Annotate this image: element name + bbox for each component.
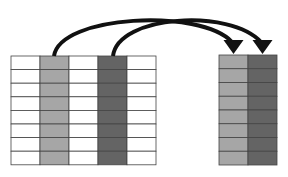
table-cell xyxy=(11,138,40,152)
table-cell xyxy=(69,138,98,152)
table-cell xyxy=(11,97,40,111)
table-cell xyxy=(219,138,248,152)
table-cell xyxy=(219,124,248,138)
table-cell xyxy=(219,96,248,110)
table-cell xyxy=(69,97,98,111)
table-cell xyxy=(127,124,156,138)
table-cell xyxy=(11,70,40,84)
source-column-4-dark xyxy=(98,56,127,165)
table-cell xyxy=(98,56,127,70)
target-table xyxy=(219,55,277,165)
table-cell xyxy=(40,97,69,111)
table-cell xyxy=(40,56,69,70)
table-cell xyxy=(11,56,40,70)
table-cell xyxy=(248,124,277,138)
table-cell xyxy=(98,70,127,84)
table-cell xyxy=(219,69,248,83)
table-cell xyxy=(98,151,127,165)
table-cell xyxy=(248,55,277,69)
table-cell xyxy=(98,83,127,97)
arrowhead-icon xyxy=(224,40,244,54)
table-cell xyxy=(127,70,156,84)
source-column-1 xyxy=(11,56,40,165)
table-cell xyxy=(69,83,98,97)
table-cell xyxy=(248,151,277,165)
table-cell xyxy=(219,110,248,124)
table-cell xyxy=(40,110,69,124)
column-selection-diagram xyxy=(0,0,288,177)
table-cell xyxy=(11,110,40,124)
table-cell xyxy=(219,55,248,69)
table-cell xyxy=(127,138,156,152)
table-cell xyxy=(219,151,248,165)
table-cell xyxy=(11,83,40,97)
table-cell xyxy=(127,151,156,165)
table-cell xyxy=(69,124,98,138)
table-cell xyxy=(248,83,277,97)
arrowhead-icon xyxy=(253,40,273,54)
source-column-3 xyxy=(69,56,98,165)
arrows xyxy=(54,20,273,56)
table-cell xyxy=(40,138,69,152)
source-table xyxy=(11,56,156,165)
table-cell xyxy=(219,83,248,97)
target-column-2-dark xyxy=(248,55,277,165)
table-cell xyxy=(40,124,69,138)
table-cell xyxy=(40,83,69,97)
table-cell xyxy=(248,69,277,83)
source-column-2-light xyxy=(40,56,69,165)
table-cell xyxy=(127,56,156,70)
table-cell xyxy=(248,138,277,152)
table-cell xyxy=(40,70,69,84)
target-column-1-light xyxy=(219,55,248,165)
table-cell xyxy=(98,138,127,152)
table-cell xyxy=(40,151,69,165)
table-cell xyxy=(11,151,40,165)
table-cell xyxy=(248,110,277,124)
table-cell xyxy=(127,83,156,97)
source-column-5 xyxy=(127,56,156,165)
table-cell xyxy=(69,70,98,84)
table-cell xyxy=(127,110,156,124)
table-cell xyxy=(69,151,98,165)
table-cell xyxy=(69,110,98,124)
table-cell xyxy=(69,56,98,70)
table-cell xyxy=(98,124,127,138)
table-cell xyxy=(127,97,156,111)
table-cell xyxy=(98,97,127,111)
table-cell xyxy=(11,124,40,138)
table-cell xyxy=(248,96,277,110)
table-cell xyxy=(98,110,127,124)
